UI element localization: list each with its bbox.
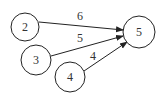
- graph-diagram: 654 2345: [0, 0, 166, 99]
- node-5: 5: [123, 16, 155, 48]
- edge-weight-label: 5: [77, 31, 83, 45]
- node-3: 3: [21, 45, 51, 75]
- node-label: 2: [22, 20, 28, 34]
- node-label: 4: [67, 70, 73, 84]
- node-label: 3: [33, 53, 39, 67]
- edge-weight-label: 4: [90, 49, 96, 63]
- edge-arrow: [51, 36, 123, 56]
- edge-2-to-5: 6: [39, 9, 123, 30]
- node-2: 2: [11, 13, 39, 41]
- node-label: 5: [136, 25, 142, 39]
- edge-4-to-5: 4: [84, 42, 127, 71]
- edge-weight-label: 6: [77, 9, 83, 23]
- edge-arrow: [39, 22, 123, 30]
- node-4: 4: [55, 62, 85, 92]
